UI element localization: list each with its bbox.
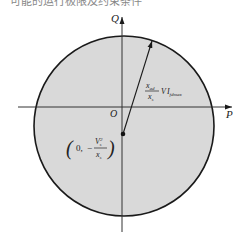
capability-circle	[34, 36, 214, 216]
q-axis-label: Q	[111, 12, 119, 24]
svg-text:−: −	[87, 143, 92, 153]
pq-capability-diagram: Q P O xad xs VIfdmax ( 0, − V2s xs )	[0, 0, 252, 244]
origin-label: O	[110, 108, 117, 119]
svg-text:): )	[107, 137, 115, 160]
p-axis-label: P	[225, 108, 233, 120]
svg-text:0,: 0,	[76, 143, 83, 153]
center-point	[121, 132, 126, 137]
